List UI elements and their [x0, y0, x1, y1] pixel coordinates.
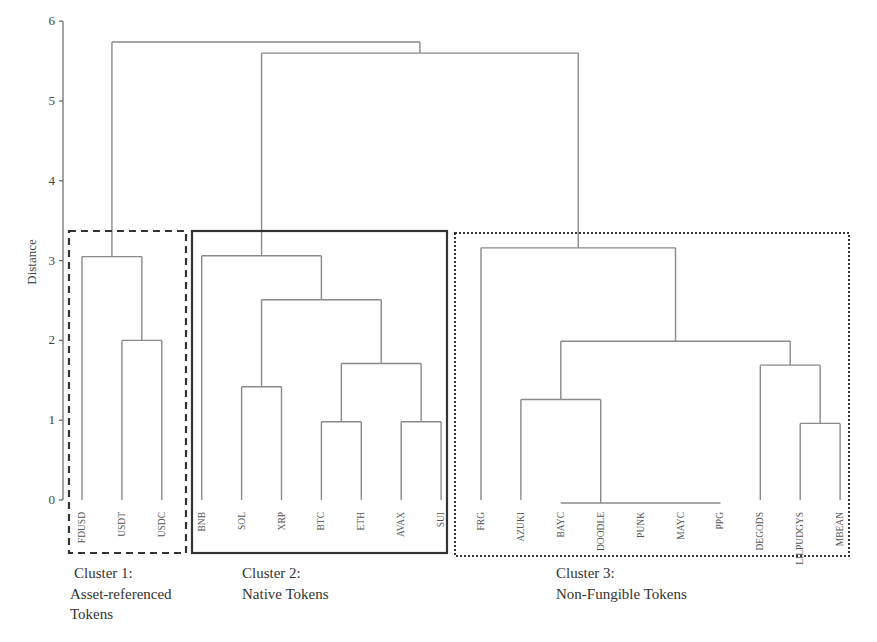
y-tick-label: 3	[49, 253, 56, 268]
y-tick-label: 6	[49, 13, 56, 28]
y-axis-title: Distance	[24, 239, 39, 285]
y-tick-label: 2	[49, 332, 56, 347]
cluster-description: Non-Fungible Tokens	[556, 586, 687, 602]
cluster-description: Asset-referenced	[70, 586, 172, 602]
leaf-label: FDUSD	[77, 512, 87, 543]
y-tick-label: 0	[49, 492, 56, 507]
y-tick-label: 1	[49, 412, 56, 427]
cluster-label: Cluster 2:	[242, 565, 301, 581]
leaf-label: ETH	[356, 512, 366, 531]
dendrogram-chart: 0123456 FDUSDUSDTUSDCBNBSOLXRPBTCETHAVAX…	[0, 0, 877, 642]
cluster-label: Cluster 1:	[74, 565, 133, 581]
cluster-description: Native Tokens	[242, 586, 329, 602]
y-axis: 0123456	[49, 13, 64, 507]
leaf-label: MBEAN	[835, 512, 845, 546]
leaf-label: PUNK	[636, 512, 646, 538]
leaf-label: FRG	[476, 512, 486, 531]
leaf-label: USDC	[157, 512, 167, 537]
leaf-label: MAYC	[676, 512, 686, 540]
leaf-label: AZUKI	[516, 512, 526, 542]
leaf-label: BNB	[197, 512, 207, 532]
leaf-label: BAYC	[556, 512, 566, 538]
cluster-box-2	[192, 231, 447, 553]
cluster-box-1	[69, 231, 186, 553]
dendrogram-branches	[82, 42, 840, 503]
cluster-description: Tokens	[70, 606, 113, 622]
y-tick-label: 4	[49, 173, 56, 188]
leaf-label: BTC	[316, 512, 326, 530]
leaf-label: DEGODS	[755, 512, 765, 551]
y-tick-label: 5	[49, 93, 56, 108]
cluster-label: Cluster 3:	[556, 565, 615, 581]
leaf-label: PPG	[715, 512, 725, 530]
leaf-label: XRP	[277, 512, 287, 530]
leaf-label: SUI	[436, 512, 446, 527]
cluster-boxes: Cluster 1:Asset-referencedTokensCluster …	[69, 231, 849, 622]
leaf-label: DOODLE	[596, 512, 606, 551]
leaf-label: USDT	[117, 512, 127, 537]
leaf-label: SOL	[237, 512, 247, 530]
cluster-box-3	[455, 233, 849, 556]
leaf-label: AVAX	[396, 512, 406, 537]
